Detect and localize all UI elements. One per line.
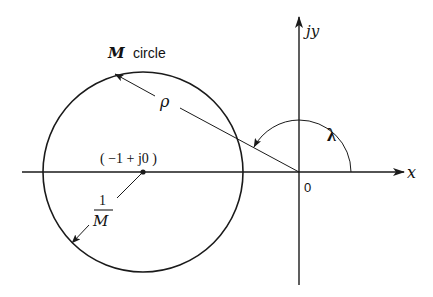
m-circle-diagram: M circle ρ λ ( −1 + j0 ) 1 M 0 x jy — [0, 0, 433, 297]
inv-m-denominator: M — [92, 212, 109, 230]
inv-m-numerator: 1 — [99, 193, 106, 208]
circle-name-var: M — [107, 44, 125, 62]
lambda-arc — [254, 120, 351, 172]
center-point-label: ( −1 + j0 ) — [100, 151, 157, 167]
rho-line-upper — [115, 74, 155, 96]
circle-name-word: circle — [133, 45, 166, 61]
y-axis-label: jy — [303, 22, 320, 40]
rho-label: ρ — [159, 92, 170, 111]
rho-line-lower — [180, 108, 299, 172]
inv-m-line-upper — [117, 172, 143, 198]
lambda-label: λ — [327, 125, 336, 145]
x-axis-label: x — [407, 163, 416, 182]
origin-label: 0 — [304, 180, 311, 195]
inv-m-line-lower — [72, 225, 89, 243]
